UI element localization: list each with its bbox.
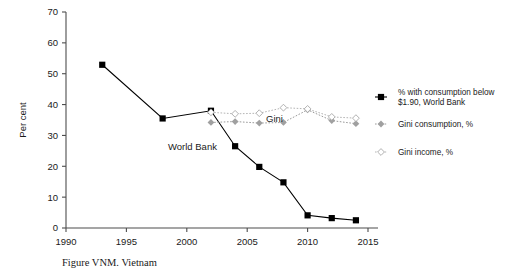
legend-marker-2 <box>378 149 385 156</box>
legend-marker-0 <box>378 94 384 100</box>
y-tick-label: 20 <box>47 161 58 172</box>
data-point-marker <box>208 119 215 126</box>
y-axis-label: Per cent <box>17 102 28 138</box>
legend-label-1: Gini consumption, % <box>398 120 473 129</box>
legend-marker-1 <box>378 121 385 128</box>
data-point-marker <box>329 215 335 221</box>
x-tick-label: 2015 <box>357 236 378 247</box>
x-tick-label: 2000 <box>176 236 197 247</box>
x-tick-label: 1990 <box>55 236 76 247</box>
data-point-marker <box>328 114 335 121</box>
y-tick-label: 70 <box>47 6 58 17</box>
x-tick-label: 1995 <box>116 236 137 247</box>
legend-label-0: % with consumption below <box>398 88 495 97</box>
data-point-marker <box>232 118 239 125</box>
figure-container: 010203040506070199019952000200520102015P… <box>0 0 529 276</box>
legend: % with consumption below$1.90, World Ban… <box>375 88 495 157</box>
data-point-marker <box>256 110 263 117</box>
series-line-0 <box>102 65 356 221</box>
axes: 010203040506070199019952000200520102015P… <box>17 6 379 247</box>
data-point-marker <box>280 104 287 111</box>
data-point-marker <box>353 217 359 223</box>
data-point-marker <box>232 110 239 117</box>
x-tick-label: 2005 <box>237 236 258 247</box>
y-tick-label: 30 <box>47 130 58 141</box>
data-point-marker <box>280 179 286 185</box>
data-point-marker <box>256 164 262 170</box>
y-tick-label: 0 <box>53 222 58 233</box>
data-point-marker <box>160 115 166 121</box>
annotation-gini: Gini <box>266 113 283 124</box>
y-tick-label: 60 <box>47 37 58 48</box>
annotation-world-bank: World Bank <box>168 141 217 152</box>
legend-label-2: Gini income, % <box>398 148 453 157</box>
data-series <box>99 62 359 224</box>
y-tick-label: 40 <box>47 99 58 110</box>
figure-caption: Figure VNM. Vietnam <box>62 257 157 268</box>
data-point-marker <box>305 212 311 218</box>
data-point-marker <box>99 62 105 68</box>
y-tick-label: 10 <box>47 192 58 203</box>
legend-label-0-line2: $1.90, World Bank <box>398 98 466 107</box>
chart-svg: 010203040506070199019952000200520102015P… <box>0 0 529 276</box>
data-point-marker <box>353 115 360 122</box>
data-point-marker <box>256 120 263 127</box>
y-tick-label: 50 <box>47 68 58 79</box>
data-point-marker <box>232 143 238 149</box>
x-tick-label: 2010 <box>297 236 318 247</box>
